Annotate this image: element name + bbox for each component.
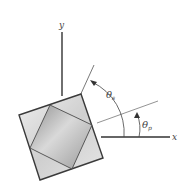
theta-s-label: θs (106, 89, 115, 101)
x-axis-label: x (172, 132, 177, 142)
theta-p-arrowhead (134, 112, 140, 118)
theta-p-label: θp (142, 119, 152, 132)
theta-s-arrowhead (90, 80, 97, 86)
stress-element-diagram: y x θs θp (0, 0, 184, 184)
principal-plane-line (97, 101, 158, 123)
y-axis-label: y (58, 20, 65, 30)
